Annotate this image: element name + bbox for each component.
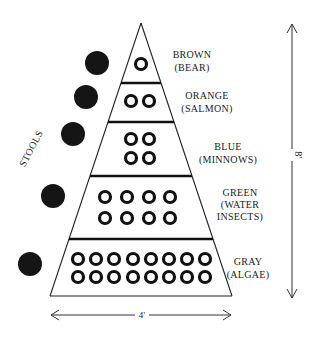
level-orange-salmon xyxy=(126,96,155,107)
ring-icon xyxy=(146,272,157,283)
ring-icon xyxy=(91,254,102,265)
ring-icon xyxy=(182,272,193,283)
ring-icon xyxy=(144,192,155,203)
ring-icon xyxy=(73,272,84,283)
height-label: 8' xyxy=(293,151,304,158)
ring-icon xyxy=(128,272,139,283)
ring-icon xyxy=(182,254,193,265)
ring-icon xyxy=(200,254,211,265)
width-label: 4' xyxy=(139,310,146,320)
ring-icon xyxy=(126,134,137,145)
label-water: (WATER xyxy=(221,199,259,211)
ring-icon xyxy=(164,272,175,283)
label-gray: GRAY xyxy=(234,256,263,267)
stool-icon xyxy=(61,122,85,146)
ring-icon xyxy=(126,96,137,107)
level-brown-bear xyxy=(136,59,147,70)
ring-icon xyxy=(122,213,133,224)
ring-icon xyxy=(144,96,155,107)
ring-icon xyxy=(164,254,175,265)
ring-icon xyxy=(126,153,137,164)
label-green: GREEN xyxy=(223,187,258,198)
ring-icon xyxy=(109,254,120,265)
stool-icon xyxy=(18,252,42,276)
label-brown: BROWN xyxy=(173,49,212,60)
stools xyxy=(18,51,109,276)
stool-icon xyxy=(85,51,109,75)
ring-icon xyxy=(73,254,84,265)
stool-icon xyxy=(41,184,65,208)
width-dimension: 4' xyxy=(51,310,231,320)
ring-icon xyxy=(144,134,155,145)
ring-icon xyxy=(146,254,157,265)
ring-icon xyxy=(100,213,111,224)
ring-icon xyxy=(100,192,111,203)
level-green-water-insects xyxy=(100,192,176,224)
height-dimension: 8' xyxy=(287,24,304,298)
label-bear: (BEAR) xyxy=(174,62,209,74)
stools-label: STOOLS xyxy=(17,128,45,168)
level-labels: BROWN (BEAR) ORANGE (SALMON) BLUE (MINNO… xyxy=(173,49,270,281)
ring-icon xyxy=(128,254,139,265)
ring-icon xyxy=(122,192,133,203)
label-blue: BLUE xyxy=(214,141,241,152)
label-minnows: (MINNOWS) xyxy=(199,154,257,166)
ring-icon xyxy=(165,213,176,224)
label-algae: (ALGAE) xyxy=(227,269,270,281)
food-pyramid-diagram: STOOLS BROWN (BEAR) ORANGE (SALMON) BLUE… xyxy=(0,0,316,343)
stool-icon xyxy=(74,85,98,109)
level-gray-algae xyxy=(73,254,211,283)
ring-icon xyxy=(200,272,211,283)
label-insects: INSECTS) xyxy=(217,211,263,223)
label-salmon: (SALMON) xyxy=(181,103,232,115)
ring-icon xyxy=(91,272,102,283)
ring-icon xyxy=(136,59,147,70)
ring-icon xyxy=(165,192,176,203)
ring-icon xyxy=(109,272,120,283)
label-orange: ORANGE xyxy=(185,90,228,101)
ring-icon xyxy=(144,213,155,224)
level-blue-minnows xyxy=(126,134,155,164)
ring-icon xyxy=(144,153,155,164)
